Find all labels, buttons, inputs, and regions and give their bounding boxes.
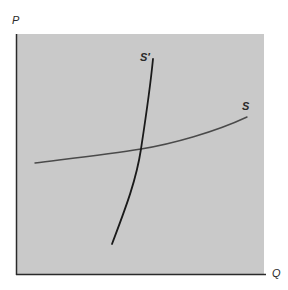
curve-s-prime-label: S′ <box>140 52 150 63</box>
y-axis-label: P <box>12 15 19 26</box>
x-axis-label: Q <box>272 268 281 279</box>
curve-s-label: S <box>242 101 249 112</box>
supply-curves-chart <box>0 0 288 290</box>
